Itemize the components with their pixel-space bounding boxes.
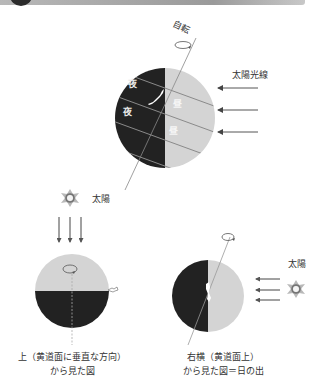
top-view-globe <box>35 254 118 345</box>
japan-icon <box>108 287 118 292</box>
side-view-arrows <box>256 279 280 300</box>
sunlight-label: 太陽光線 <box>232 68 268 81</box>
side-view-sun-label: 太陽 <box>288 257 306 270</box>
side-view-caption-line2: から見た図＝日の出 <box>163 364 283 378</box>
night-label: 夜 <box>123 105 132 118</box>
day-half <box>208 260 244 332</box>
top-view-sun-icon <box>61 189 79 207</box>
night-half <box>172 260 208 332</box>
top-view-caption-line2: から見た図 <box>12 364 132 378</box>
side-view-caption-line1: 右横（黄道面上） <box>163 350 283 364</box>
top-view-caption: 上（黄道面に垂直な方向） から見た図 <box>12 350 132 378</box>
top-view-caption-line1: 上（黄道面に垂直な方向） <box>12 350 132 364</box>
rotation-arrow-icon <box>222 234 234 241</box>
earth-rotation-diagram <box>0 0 325 391</box>
side-view-caption: 右横（黄道面上） から見た図＝日の出 <box>163 350 283 378</box>
top-view-sun-label: 太陽 <box>92 192 110 205</box>
sunlight-arrows <box>218 88 258 132</box>
night-label: 夜 <box>128 77 137 90</box>
day-label: 昼 <box>169 124 178 137</box>
day-half <box>165 60 225 180</box>
side-view-globe <box>172 234 244 346</box>
side-view-sun-icon <box>287 280 305 298</box>
top-view-arrows <box>59 217 81 242</box>
day-label: 昼 <box>173 97 182 110</box>
